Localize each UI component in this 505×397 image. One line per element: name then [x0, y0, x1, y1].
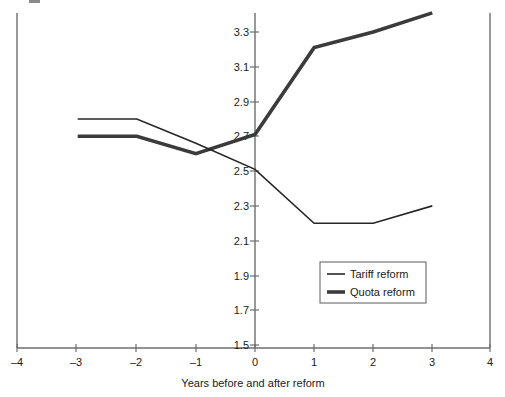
legend-label-quota-reform: Quota reform — [350, 286, 415, 298]
line-chart: 3.3 3.1 2.9 2.7 2.5 2.3 2.1 1.9 1.7 1.5 … — [0, 0, 505, 397]
x-axis-tick-labels: –4 –3 –2 –1 0 1 2 3 4 — [11, 356, 493, 368]
y-tick-label: 2.1 — [234, 235, 249, 247]
y-tick-label: 2.5 — [234, 165, 249, 177]
y-tick-label: 2.3 — [234, 200, 249, 212]
y-tick-label: 3.3 — [234, 26, 249, 38]
x-tick-label: –4 — [11, 356, 23, 368]
x-tick-label: 3 — [429, 356, 435, 368]
x-tick-label: 2 — [370, 356, 376, 368]
y-tick-label: 1.7 — [234, 304, 249, 316]
legend-label-tariff-reform: Tariff reform — [350, 268, 408, 280]
x-tick-label: –2 — [130, 356, 142, 368]
x-tick-label: 4 — [487, 356, 493, 368]
x-tick-label: –1 — [190, 356, 202, 368]
x-tick-label: 1 — [311, 356, 317, 368]
y-tick-label: 3.1 — [234, 61, 249, 73]
y-axis-tick-labels: 3.3 3.1 2.9 2.7 2.5 2.3 2.1 1.9 1.7 1.5 — [234, 26, 249, 351]
top-edge-artifact — [29, 0, 40, 3]
x-tick-label: 0 — [252, 356, 258, 368]
y-tick-label: 2.9 — [234, 96, 249, 108]
y-tick-label: 1.9 — [234, 270, 249, 282]
chart-legend: Tariff reform Quota reform — [320, 262, 426, 303]
x-axis-title: Years before and after reform — [181, 377, 324, 389]
y-tick-label: 1.5 — [234, 339, 249, 351]
chart-canvas: 3.3 3.1 2.9 2.7 2.5 2.3 2.1 1.9 1.7 1.5 … — [0, 0, 505, 397]
x-tick-label: –3 — [70, 356, 82, 368]
